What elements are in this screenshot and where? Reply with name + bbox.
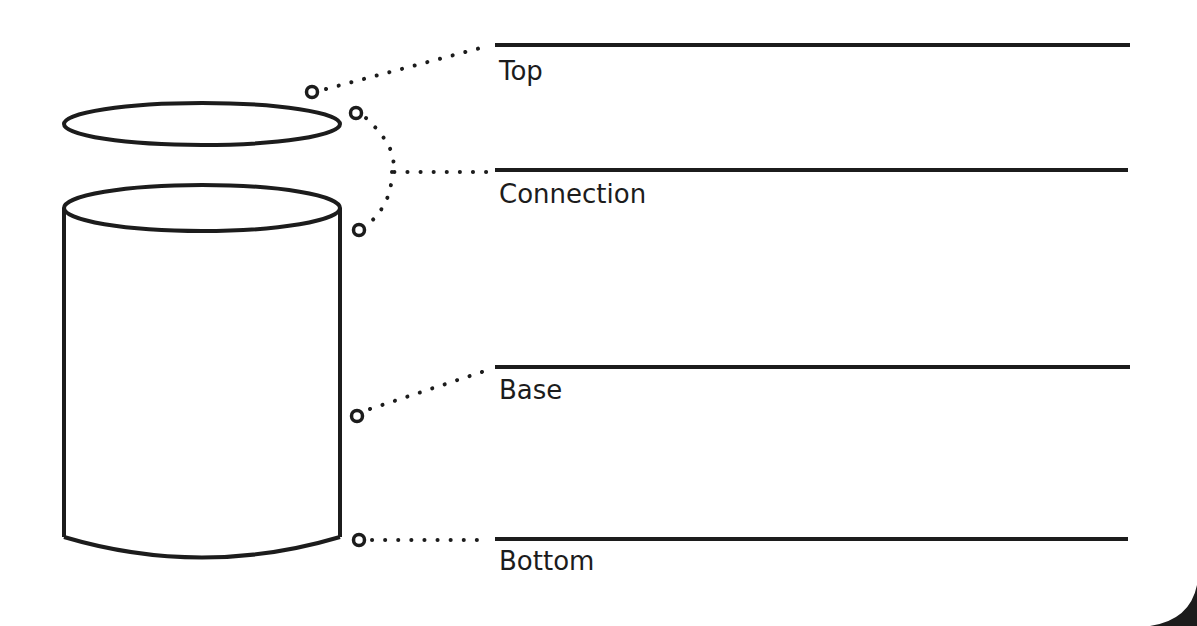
cylinder-diagram bbox=[0, 0, 1197, 626]
leader-top bbox=[326, 46, 488, 89]
leader-connection-lower bbox=[366, 172, 392, 226]
leader-connection bbox=[366, 118, 488, 172]
label-bottom: Bottom bbox=[499, 548, 594, 574]
marker-connection-lower bbox=[354, 225, 365, 236]
label-base: Base bbox=[499, 377, 562, 403]
page-corner-edge bbox=[1150, 585, 1197, 626]
leader-base bbox=[370, 370, 488, 409]
marker-bottom bbox=[354, 535, 365, 546]
cylinder-lid bbox=[64, 103, 340, 145]
label-top: Top bbox=[499, 58, 543, 84]
marker-base bbox=[352, 411, 363, 422]
label-connection: Connection bbox=[499, 181, 646, 207]
marker-top bbox=[307, 87, 318, 98]
cylinder-body bbox=[64, 185, 340, 558]
marker-connection-upper bbox=[351, 108, 362, 119]
